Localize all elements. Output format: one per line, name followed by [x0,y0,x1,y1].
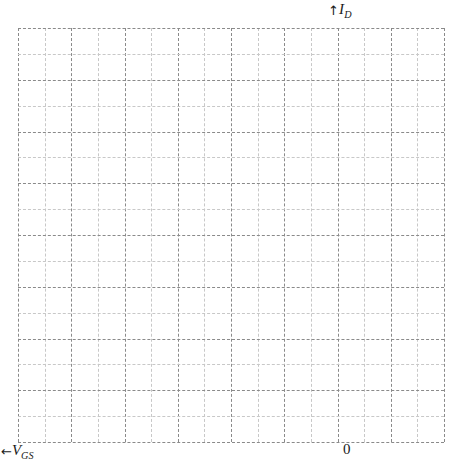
grid-line-vertical-major [18,28,19,442]
grid-line-vertical-major [391,28,392,442]
grid-line-horizontal-minor [18,313,444,314]
y-axis-arrow-icon: ↑ [328,3,339,18]
grid-line-horizontal-major [18,287,444,288]
x-axis-arrow-icon: ← [1,444,12,459]
grid-line-vertical-major [444,28,445,442]
grid-line-horizontal-major [18,183,444,184]
grid-line-vertical-minor [364,28,365,442]
y-axis-subscript: D [344,9,352,20]
x-axis-symbol: V [12,442,21,458]
grid-line-vertical-minor [311,28,312,442]
grid-line-horizontal-minor [18,261,444,262]
grid-line-horizontal-major [18,80,444,81]
grid-line-horizontal-minor [18,54,444,55]
plot-grid-area [18,28,444,442]
grid-line-vertical-major [231,28,232,442]
grid-line-horizontal-major [18,339,444,340]
grid-line-vertical-minor [417,28,418,442]
grid-line-vertical-minor [258,28,259,442]
origin-tick-label: 0 [343,441,351,458]
grid-line-vertical-major [71,28,72,442]
grid-line-horizontal-minor [18,416,444,417]
grid-line-horizontal-minor [18,157,444,158]
grid-line-horizontal-major [18,132,444,133]
grid-line-vertical-minor [98,28,99,442]
grid-line-vertical-minor [151,28,152,442]
y-axis-label: ↑ID [328,1,352,20]
grid-line-horizontal-minor [18,209,444,210]
grid-line-vertical-minor [45,28,46,442]
grid-line-vertical-major [178,28,179,442]
grid-line-horizontal-major [18,390,444,391]
grid-line-horizontal-minor [18,364,444,365]
grid-line-vertical-minor [204,28,205,442]
grid-line-horizontal-minor [18,106,444,107]
grid-line-vertical-major [338,28,339,442]
chart-figure: ↑ID ←VGS 0 [0,0,463,461]
grid-line-horizontal-major [18,442,444,443]
grid-line-vertical-major [125,28,126,442]
x-axis-label: ←VGS [1,442,34,461]
grid-line-horizontal-major [18,235,444,236]
x-axis-subscript: GS [21,450,33,461]
grid-line-vertical-major [284,28,285,442]
grid-line-horizontal-major [18,28,444,29]
